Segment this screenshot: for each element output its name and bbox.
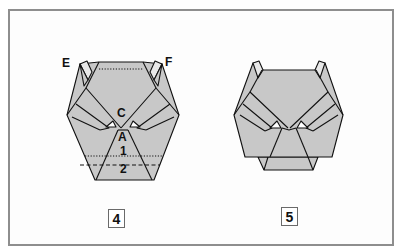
origami-diagram [0, 0, 401, 252]
label-a: A [118, 131, 127, 143]
step-5-figure [234, 61, 343, 170]
step-number-4: 4 [108, 209, 125, 228]
label-e: E [62, 57, 70, 69]
label-c: C [117, 107, 126, 119]
label-fold-1: 1 [120, 145, 127, 157]
step-number-5: 5 [281, 207, 298, 226]
label-f: F [165, 56, 172, 68]
label-fold-2: 2 [120, 163, 127, 175]
